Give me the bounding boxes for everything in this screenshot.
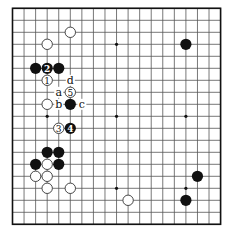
black-stone [180, 195, 191, 206]
star-point [184, 115, 187, 118]
black-stone-4: 4 [65, 123, 76, 134]
stone-move-number: 1 [44, 76, 50, 86]
white-stone [42, 171, 52, 181]
stone-move-number: 3 [56, 124, 62, 134]
black-stone [30, 63, 41, 74]
black-stone [53, 159, 64, 170]
stone-move-number: 2 [44, 64, 50, 74]
stone-move-number: 5 [67, 88, 73, 98]
letter-mark-d: d [66, 74, 75, 87]
letter-mark-label: c [79, 98, 85, 111]
black-stone-2: 2 [42, 63, 53, 74]
star-point [46, 115, 49, 118]
white-stone-1: 1 [42, 75, 52, 85]
letter-mark-label: b [55, 98, 62, 111]
white-stone [30, 171, 40, 181]
star-point [115, 187, 118, 190]
white-stone [42, 99, 52, 109]
black-stone [180, 39, 191, 50]
star-point [184, 187, 187, 190]
black-stone [30, 159, 41, 170]
white-stone [42, 183, 52, 193]
black-stone [53, 63, 64, 74]
white-stone [42, 159, 52, 169]
black-stone [42, 147, 53, 158]
white-stone [123, 195, 133, 205]
letter-mark-c: c [77, 98, 86, 111]
white-stone-3: 3 [54, 123, 64, 134]
letter-mark-label: d [67, 74, 74, 87]
black-stone [65, 99, 76, 110]
white-stone [65, 27, 75, 37]
black-stone [192, 171, 203, 182]
letter-mark-b: b [54, 98, 63, 111]
star-point [115, 115, 118, 118]
white-stone [42, 39, 52, 49]
star-point [115, 43, 118, 46]
white-stone-5: 5 [65, 87, 75, 97]
white-stone [65, 183, 75, 193]
black-stone [53, 147, 64, 158]
go-board: dabc 21534 [0, 0, 230, 238]
stone-move-number: 4 [67, 124, 73, 134]
